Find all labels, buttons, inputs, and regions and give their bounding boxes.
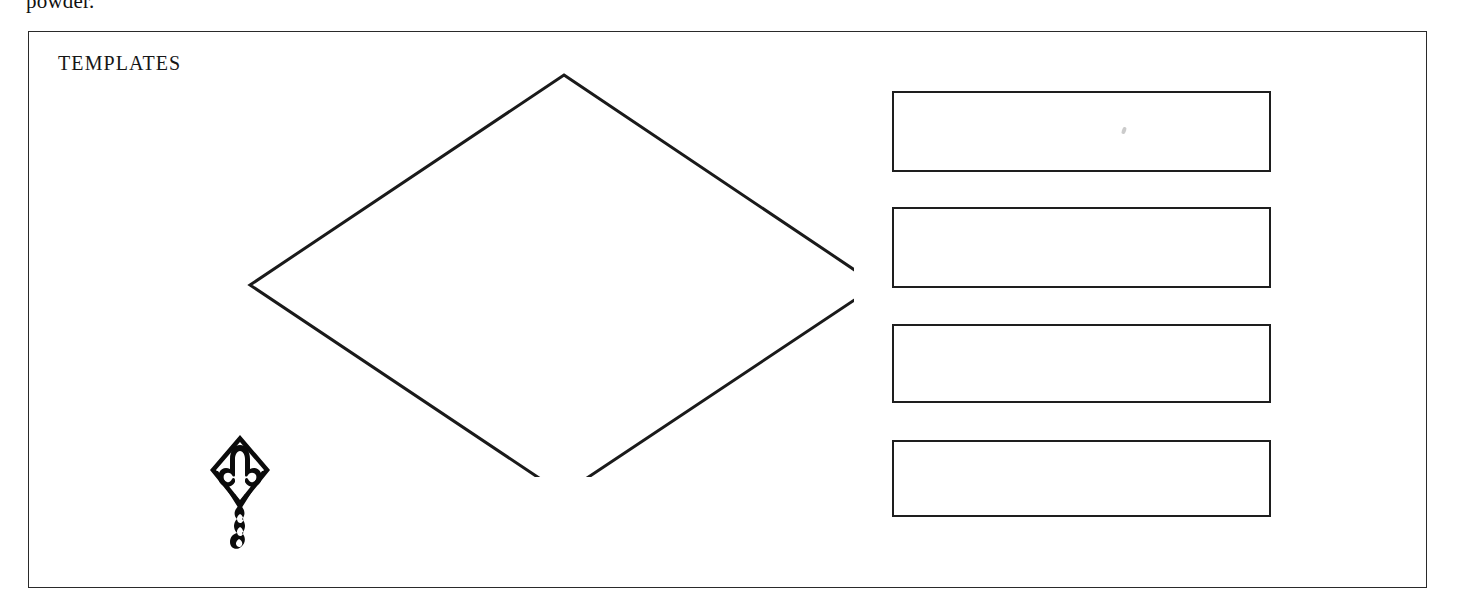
scan-speck <box>1121 127 1127 135</box>
page-title: TEMPLATES <box>58 52 181 75</box>
strip-template-2 <box>892 207 1271 288</box>
strip-template-group <box>892 91 1273 519</box>
kite-tail-loops <box>230 505 245 549</box>
diamond-template-outline <box>250 75 854 477</box>
running-body-text: powder. <box>26 0 94 13</box>
kite-illustration <box>184 397 299 557</box>
strip-template-3 <box>892 324 1271 403</box>
template-frame: TEMPLATES <box>28 31 1427 588</box>
strip-template-1 <box>892 91 1271 172</box>
strip-template-4 <box>892 440 1271 517</box>
diamond-template <box>214 37 854 477</box>
